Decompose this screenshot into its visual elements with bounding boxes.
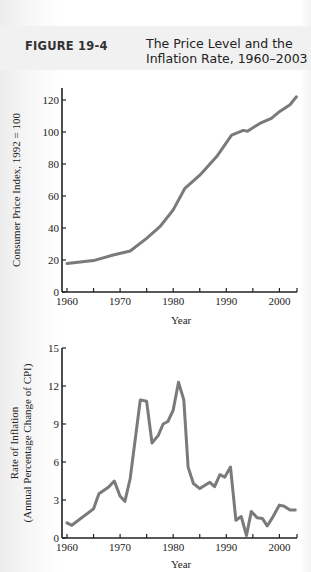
data-line xyxy=(67,97,296,264)
y-tick-label: 9 xyxy=(54,418,60,430)
y-tick-label: 80 xyxy=(48,158,60,170)
x-tick-label: 1980 xyxy=(162,295,185,307)
x-tick-label: 1990 xyxy=(215,295,238,307)
y-tick-label: 120 xyxy=(43,94,60,106)
y-tick-label: 40 xyxy=(48,222,60,234)
x-tick-label: 1970 xyxy=(109,295,132,307)
y-tick-label: 15 xyxy=(48,342,60,354)
y-tick-label: 12 xyxy=(48,380,59,392)
x-axis-title: Year xyxy=(171,558,192,570)
x-tick-label: 1960 xyxy=(56,541,79,553)
x-tick-label: 1970 xyxy=(109,541,132,553)
x-tick-label: 1990 xyxy=(215,541,238,553)
charts-canvas: 02040608010012019601970198019902000YearC… xyxy=(0,0,311,572)
y-axis-title: (Annual Percentage Change of CPI) xyxy=(21,363,34,522)
y-tick-label: 60 xyxy=(48,190,60,202)
y-tick-label: 100 xyxy=(43,126,60,138)
x-axis-title: Year xyxy=(171,314,192,326)
x-tick-label: 1960 xyxy=(56,295,79,307)
x-tick-label: 1980 xyxy=(162,541,185,553)
y-tick-label: 20 xyxy=(48,254,60,266)
y-axis-title: Consumer Price Index, 1992 = 100 xyxy=(10,112,22,267)
x-tick-label: 2000 xyxy=(268,541,291,553)
cpi-chart: 02040608010012019601970198019902000YearC… xyxy=(10,88,297,326)
y-tick-label: 3 xyxy=(54,494,60,506)
data-line xyxy=(67,382,295,535)
y-tick-label: 6 xyxy=(54,456,60,468)
figure-page: FIGURE 19-4 The Price Level and the Infl… xyxy=(0,0,311,572)
inflation-chart: 0369121519601970198019902000YearRate of … xyxy=(8,342,297,570)
y-axis-title: Rate of Inflation xyxy=(8,406,20,479)
x-tick-label: 2000 xyxy=(268,295,291,307)
